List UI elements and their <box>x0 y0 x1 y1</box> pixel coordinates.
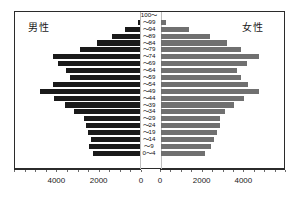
bar-male <box>70 75 140 80</box>
bar-male <box>86 123 140 128</box>
bar-male <box>65 102 140 107</box>
bar-female <box>161 47 241 52</box>
axis-tick-label-male: 2000 <box>90 176 108 185</box>
bar-female <box>161 137 214 142</box>
axis-tick-minor <box>243 170 244 172</box>
axis-tick-minor <box>285 170 286 172</box>
bar-female <box>161 75 241 80</box>
bar-rows-container: 100～～99～94～89～84～79～74～69～64～59～54～49～44… <box>15 12 284 168</box>
x-axis-female <box>160 169 285 175</box>
axis-tick-minor <box>275 170 276 172</box>
axis-tick-minor <box>181 170 182 172</box>
bar-female <box>161 130 217 135</box>
bar-female <box>161 82 248 87</box>
x-axis-male <box>14 169 141 175</box>
axis-tick-label-male: 4000 <box>47 176 65 185</box>
axis-tick-minor <box>109 170 110 172</box>
bar-male <box>66 68 140 73</box>
axis-tick-minor <box>191 170 192 172</box>
bar-female <box>161 89 259 94</box>
axis-tick-minor <box>141 170 142 172</box>
axis-tick-minor <box>254 170 255 172</box>
axis-tick-minor <box>130 170 131 172</box>
axis-tick-minor <box>46 170 47 172</box>
bar-male <box>40 89 140 94</box>
axis-tick-minor <box>35 170 36 172</box>
axis-tick-label-female: 4000 <box>234 176 252 185</box>
bar-female <box>161 144 211 149</box>
axis-tick-minor <box>170 170 171 172</box>
bar-female <box>161 61 247 66</box>
axis-tick-minor <box>202 170 203 172</box>
bar-male <box>84 116 140 121</box>
axis-tick-label-female: 0 <box>158 176 162 185</box>
bar-male <box>58 61 140 66</box>
axis-tick-label-female: 2000 <box>193 176 211 185</box>
axis-tick-minor <box>264 170 265 172</box>
bar-male <box>80 47 140 52</box>
bar-male <box>74 109 140 114</box>
axis-tick-label-male: 0 <box>139 176 143 185</box>
axis-tick-minor <box>88 170 89 172</box>
bar-female <box>161 123 220 128</box>
bar-female <box>161 109 225 114</box>
axis-tick-minor <box>67 170 68 172</box>
bar-female <box>161 68 237 73</box>
axis-tick-minor <box>78 170 79 172</box>
bar-female <box>161 27 189 32</box>
axis-tick-minor <box>212 170 213 172</box>
age-group-label: 0～4 <box>133 149 165 157</box>
pyramid-row: 0～4 <box>15 150 284 157</box>
axis-tick-minor <box>99 170 100 172</box>
axis-tick-minor <box>223 170 224 172</box>
bar-female <box>161 102 234 107</box>
axis-tick-minor <box>14 170 15 172</box>
bar-female <box>161 151 205 156</box>
axis-tick-minor <box>56 170 57 172</box>
population-pyramid-chart: 男性 女性 100～～99～94～89～84～79～74～69～64～59～54… <box>0 0 298 197</box>
bar-female <box>161 34 210 39</box>
axis-tick-minor <box>120 170 121 172</box>
bar-female <box>161 40 227 45</box>
bar-female <box>161 116 220 121</box>
bar-male <box>54 96 140 101</box>
axis-tick-minor <box>25 170 26 172</box>
axis-tick-minor <box>160 170 161 172</box>
bar-female <box>161 54 259 59</box>
bar-male <box>53 54 141 59</box>
axis-tick-minor <box>233 170 234 172</box>
bar-male <box>53 82 141 87</box>
bar-female <box>161 96 244 101</box>
